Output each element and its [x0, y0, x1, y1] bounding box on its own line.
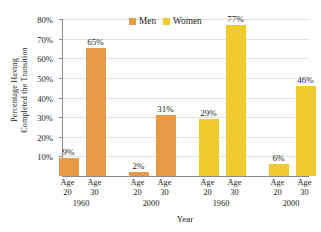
x-axis-age-label: Age30 — [88, 178, 102, 198]
bar-women-1960-age30[interactable]: 77% — [226, 25, 246, 176]
bar-men-2000-age20[interactable]: 2% — [129, 172, 149, 176]
x-axis-age-word: Age — [298, 178, 312, 188]
bar-women-2000-age20[interactable]: 6% — [269, 164, 289, 176]
x-axis-age-label: Age20 — [61, 178, 75, 198]
x-axis-age-label: Age20 — [131, 178, 145, 198]
y-axis-tick: 20% — [59, 137, 63, 138]
y-axis-tick: 80% — [59, 19, 63, 20]
x-axis-age-number: 30 — [298, 188, 312, 198]
x-axis-year-label: 1960 — [73, 199, 90, 208]
x-axis-age-number: 20 — [61, 188, 75, 198]
bar-men-1960-age20[interactable]: 9% — [59, 158, 79, 176]
x-axis-age-number: 30 — [158, 188, 172, 198]
x-axis-age-word: Age — [88, 178, 102, 188]
x-axis-age-word: Age — [201, 178, 215, 188]
x-axis-age-word: Age — [131, 178, 145, 188]
x-axis-age-number: 20 — [131, 188, 145, 198]
bar-chart: Percentage Having Completed the Transiti… — [0, 0, 321, 232]
x-axis-age-number: 30 — [228, 188, 242, 198]
y-axis-tick-label: 30% — [37, 113, 53, 123]
x-axis-year-label: 2000 — [143, 199, 160, 208]
bar-value-label: 77% — [227, 14, 244, 24]
bar-value-label: 65% — [87, 37, 104, 47]
y-axis-tick: 40% — [59, 98, 63, 99]
y-axis-tick-label: 10% — [37, 152, 53, 162]
legend-swatch-men-icon — [129, 18, 136, 25]
x-axis-age-number: 30 — [88, 188, 102, 198]
plot-area: 10%20%30%40%50%60%70%80% 9%65%2%31%29%77… — [62, 19, 309, 177]
x-axis-age-number: 20 — [271, 188, 285, 198]
x-axis-age-word: Age — [61, 178, 75, 188]
y-axis-title-line1: Percentage Having — [10, 10, 21, 170]
x-axis-age-number: 20 — [201, 188, 215, 198]
legend-label-women: Women — [173, 16, 202, 26]
x-axis-year-label: 1960 — [213, 199, 230, 208]
y-axis-tick: 50% — [59, 78, 63, 79]
bar-value-label: 31% — [157, 104, 174, 114]
y-axis-tick: 30% — [59, 117, 63, 118]
x-axis-age-label: Age20 — [271, 178, 285, 198]
y-axis-title: Percentage Having Completed the Transiti… — [0, 0, 30, 200]
x-axis-year-label: 2000 — [283, 199, 300, 208]
legend-item-women[interactable]: Women — [163, 16, 202, 26]
bar-men-2000-age30[interactable]: 31% — [156, 115, 176, 176]
y-axis-tick-label: 60% — [37, 54, 53, 64]
bar-value-label: 9% — [63, 147, 75, 157]
bar-value-label: 2% — [133, 161, 145, 171]
x-axis-age-label: Age30 — [228, 178, 242, 198]
x-axis-age-label: Age30 — [298, 178, 312, 198]
y-axis-tick-label: 70% — [37, 35, 53, 45]
x-axis-age-label: Age20 — [201, 178, 215, 198]
bar-women-2000-age30[interactable]: 46% — [296, 86, 316, 176]
y-axis-tick-label: 80% — [37, 15, 53, 25]
bar-value-label: 6% — [273, 153, 285, 163]
x-axis-age-word: Age — [228, 178, 242, 188]
y-axis-tick: 60% — [59, 58, 63, 59]
y-axis-tick-label: 40% — [37, 94, 53, 104]
legend-label-men: Men — [139, 16, 156, 26]
legend-item-men[interactable]: Men — [129, 16, 156, 26]
y-axis-title-line2: Completed the Transition — [20, 10, 31, 170]
x-axis-age-word: Age — [158, 178, 172, 188]
y-axis-tick: 70% — [59, 39, 63, 40]
y-axis-tick-label: 20% — [37, 133, 53, 143]
bar-women-1960-age20[interactable]: 29% — [199, 119, 219, 176]
x-axis-age-word: Age — [271, 178, 285, 188]
y-axis-tick-label: 50% — [37, 74, 53, 84]
bar-men-1960-age30[interactable]: 65% — [86, 48, 106, 176]
x-axis-title: Year — [62, 214, 308, 224]
bar-value-label: 46% — [297, 75, 314, 85]
bar-value-label: 29% — [200, 108, 217, 118]
legend-swatch-women-icon — [163, 18, 170, 25]
legend: Men Women — [129, 16, 202, 26]
x-axis-age-label: Age30 — [158, 178, 172, 198]
